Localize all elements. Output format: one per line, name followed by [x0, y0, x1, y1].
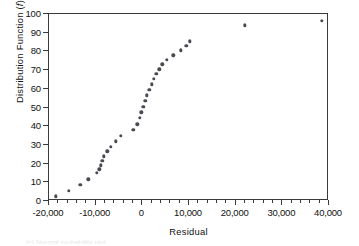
data-point: [100, 159, 103, 162]
y-axis-title-italic-f: f: [14, 3, 25, 6]
x-axis-title: Residual: [48, 226, 329, 237]
y-axis-tick-label: 0: [36, 195, 41, 206]
x-axis-minor-tick: [160, 200, 161, 203]
data-point: [145, 94, 148, 97]
data-point: [188, 39, 191, 42]
data-point: [140, 110, 143, 113]
data-point: [114, 139, 117, 142]
x-axis-tick-label: 40,000: [314, 207, 342, 218]
x-axis-major-tick: [141, 200, 142, 205]
data-point: [135, 123, 138, 126]
x-axis-minor-tick: [253, 200, 254, 203]
data-point: [143, 99, 146, 102]
data-point: [138, 116, 141, 119]
x-axis-major-tick: [281, 200, 282, 205]
data-point: [99, 164, 102, 167]
data-point: [171, 53, 174, 56]
data-point: [98, 168, 101, 171]
y-axis-tick-label: 50: [31, 101, 41, 112]
data-point: [150, 82, 153, 85]
x-axis-minor-tick: [300, 200, 301, 203]
x-axis-minor-tick: [132, 200, 133, 203]
data-point: [184, 44, 187, 47]
x-axis-major-tick: [328, 200, 329, 205]
data-point: [157, 67, 160, 70]
y-axis-tick-label: 40: [31, 120, 41, 131]
x-axis-minor-tick: [207, 200, 208, 203]
x-axis-minor-tick: [263, 200, 264, 203]
x-axis-tick-label: 30,000: [267, 207, 295, 218]
y-axis-tick-label: 10: [31, 176, 41, 187]
y-axis-tick-label: 80: [31, 45, 41, 56]
data-point: [179, 49, 182, 52]
data-point: [86, 178, 89, 181]
data-point: [155, 72, 158, 75]
data-point: [102, 154, 105, 157]
x-axis-minor-tick: [197, 200, 198, 203]
x-axis-minor-tick: [113, 200, 114, 203]
x-axis-minor-tick: [216, 200, 217, 203]
data-point: [67, 189, 70, 192]
x-axis-minor-tick: [57, 200, 58, 203]
x-axis-minor-tick: [225, 200, 226, 203]
data-point: [106, 150, 109, 153]
data-point: [161, 63, 164, 66]
x-axis-major-tick: [95, 200, 96, 205]
data-point: [142, 105, 145, 108]
x-axis-minor-tick: [85, 200, 86, 203]
x-axis-tick-label: 10,000: [174, 207, 202, 218]
y-axis-tick-label: 90: [31, 26, 41, 37]
x-axis-minor-tick: [244, 200, 245, 203]
x-axis-minor-tick: [319, 200, 320, 203]
x-axis-major-tick: [235, 200, 236, 205]
y-axis-tick-label: 30: [31, 138, 41, 149]
caption-remnant: (c) Normal probability plot: [26, 239, 206, 244]
data-point: [243, 24, 246, 27]
x-axis-tick-label: 20,000: [221, 207, 249, 218]
y-axis-title-symbol-wrap: (f): [14, 0, 25, 12]
y-axis-tick-label: 100: [25, 8, 41, 19]
y-axis-tick-label: 20: [31, 157, 41, 168]
data-point: [165, 58, 168, 61]
x-axis-minor-tick: [76, 200, 77, 203]
plot-area: [48, 13, 328, 200]
y-axis-title: Distribution Function (f): [14, 0, 25, 137]
x-axis-major-tick: [188, 200, 189, 205]
x-axis-minor-tick: [104, 200, 105, 203]
x-axis-minor-tick: [67, 200, 68, 203]
x-axis-tick-label: 0: [139, 207, 144, 218]
normal-probability-plot-figure: 0102030405060708090100 Distribution Func…: [0, 0, 359, 246]
x-axis-tick-label: -20,000: [33, 207, 64, 218]
y-axis-tick-label: 70: [31, 64, 41, 75]
x-axis-minor-tick: [123, 200, 124, 203]
data-point: [79, 183, 82, 186]
data-point: [320, 19, 323, 22]
data-point: [95, 171, 98, 174]
data-point: [109, 145, 112, 148]
data-point: [152, 77, 155, 80]
data-point: [54, 195, 57, 198]
x-axis-minor-tick: [291, 200, 292, 203]
data-point: [148, 88, 151, 91]
x-axis-major-tick: [48, 200, 49, 205]
y-axis-tick-label: 60: [31, 82, 41, 93]
data-point: [119, 134, 122, 137]
x-axis-minor-tick: [272, 200, 273, 203]
y-axis-title-text: Distribution Function: [14, 12, 25, 103]
x-axis-tick-label: -10,000: [79, 207, 110, 218]
x-axis-minor-tick: [169, 200, 170, 203]
x-axis-minor-tick: [179, 200, 180, 203]
x-axis-minor-tick: [309, 200, 310, 203]
data-point: [132, 128, 135, 131]
x-axis-minor-tick: [151, 200, 152, 203]
